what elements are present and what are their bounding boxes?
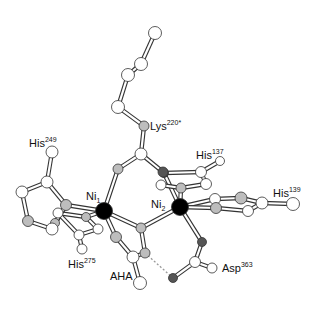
- carbon-atom: [16, 186, 28, 198]
- label-aha: AHA: [110, 270, 133, 282]
- nitrogen-atom: [136, 223, 146, 233]
- nickel-atom: [172, 199, 189, 216]
- label-ni1: Ni1: [86, 190, 100, 204]
- nickel-atom: [96, 203, 113, 220]
- nitrogen-atom: [82, 213, 91, 222]
- oxygen-atom: [158, 167, 168, 177]
- label-his139: His139: [273, 186, 301, 199]
- label-lys220: Lys220*: [150, 119, 181, 132]
- carbon-atom: [243, 206, 254, 217]
- carbon-atom: [156, 180, 166, 190]
- carbon-atom: [77, 244, 87, 254]
- label-his275: His275: [68, 257, 96, 270]
- carbon-atom: [127, 251, 139, 263]
- bonds-layer: [22, 33, 293, 283]
- carbon-atom: [41, 176, 53, 188]
- nitrogen-atom: [140, 248, 150, 258]
- carbon-atom: [46, 146, 58, 158]
- nitrogen-atom: [235, 192, 247, 204]
- carbon-atom: [134, 277, 147, 290]
- nitrogen-atom: [211, 203, 222, 214]
- carbon-atom: [46, 223, 58, 235]
- carbon-atom: [93, 224, 103, 234]
- ball-and-stick-model: Lys220* His249 His137 His139 Ni1 Ni2 His…: [0, 0, 318, 309]
- molecular-structure-figure: Lys220* His249 His137 His139 Ni1 Ni2 His…: [0, 0, 318, 309]
- carbon-atom: [190, 257, 201, 268]
- nitrogen-atom: [139, 121, 149, 131]
- nitrogen-atom: [61, 200, 72, 211]
- carbon-atom: [207, 263, 217, 273]
- oxygen-atom: [169, 274, 178, 283]
- label-ni2: Ni2: [151, 198, 165, 212]
- carbon-atom: [135, 148, 147, 160]
- carbon-atom: [112, 101, 125, 114]
- carbon-atom: [256, 197, 268, 209]
- carbon-atom: [53, 208, 63, 218]
- carbon-atom: [122, 69, 135, 82]
- atoms-layer: [16, 27, 300, 290]
- nitrogen-atom: [111, 232, 122, 243]
- carbon-atom: [201, 179, 212, 190]
- nitrogen-atom: [176, 183, 186, 193]
- nitrogen-atom: [23, 216, 34, 227]
- carbon-atom: [196, 167, 207, 178]
- carbon-atom: [74, 230, 84, 240]
- oxygen-atom: [198, 238, 207, 247]
- carbon-atom: [287, 198, 300, 211]
- label-asp363: Asp363: [222, 261, 253, 274]
- nitrogen-atom: [113, 164, 123, 174]
- hydrogen-bond-dashed-line: [145, 253, 173, 278]
- carbon-atom: [216, 157, 225, 166]
- carbon-atom: [135, 58, 148, 71]
- carbon-atom: [149, 27, 162, 40]
